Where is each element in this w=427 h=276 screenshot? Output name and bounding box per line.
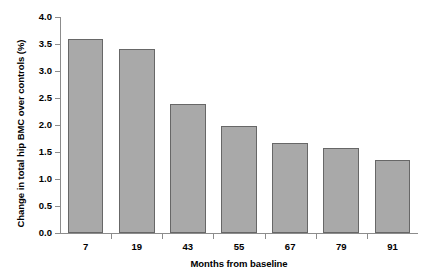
x-tick-label: 43 (165, 242, 211, 252)
bar-slot (170, 17, 206, 233)
y-axis-title: Change in total hip BMC over controls (%… (14, 17, 28, 250)
x-tick-label: 79 (318, 242, 364, 252)
x-tick-label: 55 (216, 242, 262, 252)
x-tick-label: 67 (267, 242, 313, 252)
clipped-caption-remnant (60, 0, 420, 2)
bar (221, 126, 257, 233)
bar-slot (68, 17, 104, 233)
bar (323, 148, 359, 233)
x-tick-label: 7 (63, 242, 109, 252)
bar-series (60, 17, 418, 233)
x-tick-mark (367, 234, 368, 239)
x-axis-line (60, 233, 418, 234)
x-tick-label: 91 (369, 242, 415, 252)
y-tick-label: 1.0 (28, 174, 52, 184)
bar (119, 49, 155, 233)
x-tick-mark (111, 234, 112, 239)
bar-slot (221, 17, 257, 233)
y-tick-label: 2.5 (28, 93, 52, 103)
x-axis-title: Months from baseline (60, 258, 418, 269)
y-tick-label: 3.5 (28, 39, 52, 49)
bar (272, 143, 308, 233)
x-tick-mark (265, 234, 266, 239)
x-tick-mark (213, 234, 214, 239)
bar (170, 104, 206, 233)
y-tick-label: 1.5 (28, 147, 52, 157)
bar-slot (272, 17, 308, 233)
y-tick-label: 2.0 (28, 120, 52, 130)
bar (68, 39, 104, 233)
bar-chart: Change in total hip BMC over controls (%… (0, 0, 427, 276)
x-tick-label: 19 (114, 242, 160, 252)
bar-slot (323, 17, 359, 233)
y-tick-label: 0.5 (28, 201, 52, 211)
y-tick-label: 4.0 (28, 12, 52, 22)
y-tick-label: 0.0 (28, 228, 52, 238)
bar-slot (119, 17, 155, 233)
y-tick-label: 3.0 (28, 66, 52, 76)
x-tick-mark (162, 234, 163, 239)
y-tick-mark (55, 233, 60, 234)
x-tick-mark (316, 234, 317, 239)
bar-slot (375, 17, 411, 233)
bar (375, 160, 411, 233)
